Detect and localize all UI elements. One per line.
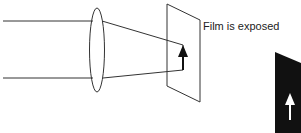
caption-film-exposed: Film is exposed [203,20,279,32]
incoming-rays [3,21,93,78]
image-arrow [178,45,188,70]
converging-rays [102,21,183,78]
developed-film-negative [275,52,301,133]
